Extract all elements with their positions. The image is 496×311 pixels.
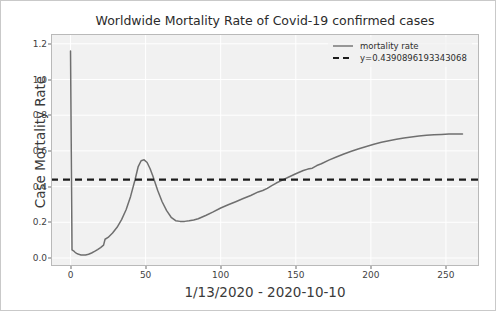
series-line-mortality-rate bbox=[71, 51, 463, 255]
y-tick-label: 0.4 bbox=[3, 182, 47, 192]
x-tick-mark bbox=[70, 266, 71, 269]
x-tick-mark bbox=[370, 266, 371, 269]
chart-figure-card: Worldwide Mortality Rate of Covid-19 con… bbox=[0, 0, 496, 311]
data-series-layer bbox=[71, 51, 463, 255]
x-axis-label: 1/13/2020 - 2020-10-10 bbox=[51, 284, 479, 300]
legend-solid-line-icon bbox=[332, 41, 354, 51]
chart-title: Worldwide Mortality Rate of Covid-19 con… bbox=[51, 13, 479, 29]
legend-entry-mortality-rate: mortality rate bbox=[332, 40, 467, 52]
legend-dashed-line-icon bbox=[332, 53, 354, 63]
x-tick-mark bbox=[295, 266, 296, 269]
y-tick-label: 0.0 bbox=[3, 253, 47, 263]
x-tick-mark bbox=[145, 266, 146, 269]
y-tick-label: 1.2 bbox=[3, 39, 47, 49]
x-axis-tick-marks bbox=[51, 266, 479, 272]
legend-entry-threshold: y=0.4390896193343068 bbox=[332, 52, 467, 64]
legend-label-threshold: y=0.4390896193343068 bbox=[360, 52, 467, 64]
y-axis-tick-labels: 0.00.20.40.60.81.01.2 bbox=[1, 34, 47, 266]
x-tick-mark bbox=[445, 266, 446, 269]
x-axis-tick-labels: 050100150200250 bbox=[51, 270, 479, 284]
y-tick-label: 0.8 bbox=[3, 110, 47, 120]
y-tick-label: 0.6 bbox=[3, 146, 47, 156]
x-tick-mark bbox=[220, 266, 221, 269]
plot-border bbox=[52, 35, 479, 266]
y-tick-label: 1.0 bbox=[3, 75, 47, 85]
plot-canvas bbox=[51, 34, 479, 266]
plot-area bbox=[51, 34, 479, 266]
chart-legend: mortality rate y=0.4390896193343068 bbox=[328, 37, 472, 67]
gridlines bbox=[51, 34, 479, 266]
legend-label-mortality-rate: mortality rate bbox=[360, 40, 419, 52]
y-tick-label: 0.2 bbox=[3, 217, 47, 227]
